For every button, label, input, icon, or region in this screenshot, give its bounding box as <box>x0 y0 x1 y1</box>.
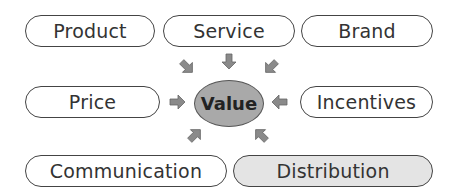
arrow-icon <box>170 95 185 109</box>
arrow-icon <box>222 54 236 69</box>
arrow-icon <box>272 95 287 109</box>
arrow-icon <box>251 125 272 146</box>
arrow-icon <box>261 57 282 78</box>
arrow-icon <box>177 57 198 78</box>
arrow-icon <box>185 125 206 146</box>
arrows-layer <box>0 0 455 195</box>
